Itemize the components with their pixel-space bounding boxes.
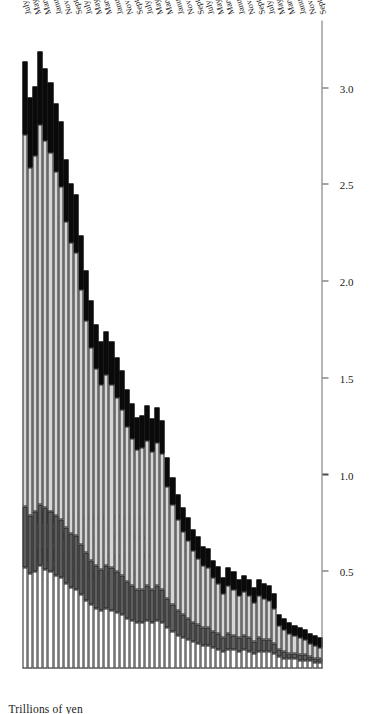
axis-tick-label: 0.5 (339, 565, 353, 577)
bar-segment-financial (266, 600, 271, 639)
bar-segment-individual (230, 571, 235, 588)
bar-segment-individual (261, 583, 266, 598)
bar-segment-individual (251, 587, 256, 602)
bar-segment-foreign (241, 649, 246, 668)
bar-segment-foreign (276, 656, 281, 668)
bar-segment-financial (154, 442, 159, 585)
bar-stack (281, 618, 286, 668)
bar-segment-individual (58, 121, 63, 187)
bar-segment-business (175, 610, 180, 635)
bar-segment-financial (256, 595, 261, 638)
bar-segment-business (83, 552, 88, 600)
bar-segment-foreign (164, 627, 169, 668)
bar-segment-foreign (78, 595, 83, 669)
bar-segment-foreign (149, 622, 154, 668)
bar-segment-individual (220, 577, 225, 592)
bar-segment-individual (42, 68, 47, 140)
bar-segment-financial (134, 449, 139, 588)
bar-segment-financial (261, 598, 266, 639)
bar-segment-financial (119, 409, 124, 575)
bar-segment-financial (175, 519, 180, 610)
bar-segment-business (63, 527, 68, 583)
bar-segment-business (256, 637, 261, 651)
bar-stack (266, 585, 271, 668)
axis-tick (322, 473, 328, 474)
bar-segment-business (297, 654, 302, 660)
bar-stack (230, 571, 235, 668)
bar-stack (119, 370, 124, 668)
bar-stack (205, 548, 210, 668)
bar-stack (93, 324, 98, 668)
bar-segment-business (200, 627, 205, 644)
bar-segment-individual (291, 625, 296, 635)
bar-segment-financial (246, 595, 251, 638)
bar-segment-foreign (108, 610, 113, 668)
bar-segment-business (276, 649, 281, 657)
bar-segment-individual (297, 627, 302, 637)
bar-segment-business (251, 641, 256, 653)
bar-segment-business (139, 589, 144, 622)
bar-stack (144, 405, 149, 668)
bar-segment-individual (47, 82, 52, 152)
bar-stack (180, 507, 185, 668)
bar-segment-foreign (281, 658, 286, 668)
bar-segment-financial (236, 595, 241, 638)
bar-segment-foreign (236, 651, 241, 668)
bar-segment-financial (68, 242, 73, 532)
bar-stack (108, 341, 113, 668)
bar-segment-financial (114, 397, 119, 571)
bar-segment-business (159, 589, 164, 622)
bar-segment-foreign (220, 651, 225, 668)
bar-segment-business (98, 569, 103, 610)
axis-tick-label: 2.5 (339, 178, 353, 190)
axis-title: Trillions of yen (8, 702, 82, 714)
bar-segment-foreign (297, 660, 302, 668)
bar-segment-financial (180, 531, 185, 614)
bar-segment-foreign (307, 660, 312, 668)
bar-segment-business (53, 515, 58, 575)
bar-segment-individual (144, 405, 149, 440)
bar-segment-foreign (93, 608, 98, 668)
bar-segment-business (47, 511, 52, 571)
bar-segment-foreign (169, 631, 174, 668)
bar-stack (103, 331, 108, 668)
bar-segment-individual (215, 566, 220, 583)
bar-segment-foreign (32, 571, 37, 668)
bar-segment-individual (175, 494, 180, 519)
bar-segment-business (215, 633, 220, 648)
bar-segment-foreign (63, 583, 68, 668)
bar-segment-foreign (175, 635, 180, 668)
bar-segment-financial (78, 289, 83, 544)
bar-segment-business (169, 604, 174, 631)
bar-segment-financial (312, 645, 317, 659)
bar-segment-individual (256, 579, 261, 594)
bar-segment-individual (312, 635, 317, 645)
bar-stack (246, 579, 251, 668)
bar-segment-individual (185, 517, 190, 540)
bar-segment-foreign (210, 647, 215, 668)
bar-stack (241, 575, 246, 668)
bar-segment-individual (286, 622, 291, 634)
bar-segment-individual (241, 575, 246, 590)
bar-stack (307, 633, 312, 668)
bar-segment-foreign (205, 645, 210, 668)
bar-segment-business (27, 515, 32, 573)
bar-segment-individual (32, 86, 37, 156)
bar-segment-business (73, 535, 78, 589)
bar-segment-financial (307, 643, 312, 657)
bar-segment-business (307, 656, 312, 660)
bar-segment-foreign (47, 571, 52, 668)
bar-stack (129, 403, 134, 668)
bar-segment-financial (124, 426, 129, 581)
bar-segment-foreign (134, 622, 139, 668)
bar-segment-business (302, 654, 307, 660)
bar-segment-financial (225, 585, 230, 633)
bar-segment-foreign (159, 622, 164, 668)
bar-segment-individual (180, 507, 185, 530)
bar-segment-financial (149, 451, 154, 588)
bar-stack (78, 235, 83, 668)
bar-stack (276, 614, 281, 668)
bar-stack (312, 635, 317, 668)
bar-segment-foreign (68, 587, 73, 668)
